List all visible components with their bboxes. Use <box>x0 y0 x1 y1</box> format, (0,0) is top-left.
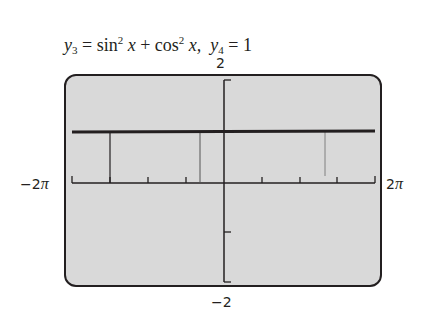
ymax-label: 2 <box>216 55 225 71</box>
xmax-number: 2 <box>386 176 395 192</box>
y3-variable: y <box>64 35 72 55</box>
xmax-pi: π <box>395 175 403 192</box>
plus-cos: + cos <box>136 35 179 55</box>
calculator-screen <box>64 74 382 287</box>
ymin-label: −2 <box>211 294 232 310</box>
equals-sin: = sin <box>78 35 118 55</box>
x-variable-1: x <box>123 35 136 55</box>
xmax-label: 2π <box>386 176 403 192</box>
xmin-pi: π <box>41 175 49 192</box>
x-variable-2: x, <box>184 35 201 55</box>
xmin-label: −2π <box>20 176 49 192</box>
equals-one: = 1 <box>224 35 252 55</box>
xmin-number: −2 <box>20 176 41 192</box>
